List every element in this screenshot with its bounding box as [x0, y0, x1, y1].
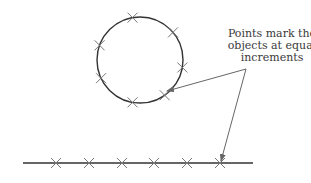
annotation-text: Points mark the objects at equal increme… [222, 28, 311, 64]
annotation-line-3: increments [222, 52, 311, 64]
arrow-to-line [221, 69, 246, 161]
circle-markers [95, 13, 188, 108]
